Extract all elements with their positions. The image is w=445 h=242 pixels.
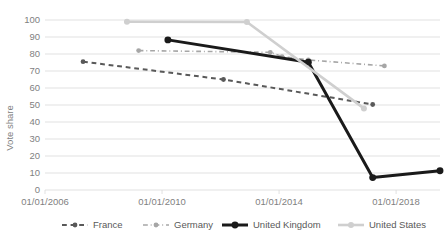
gridlines [45,20,440,190]
data-point-marker [370,102,375,107]
x-tick-label: 01/01/2018 [372,196,420,207]
y-tick-label: 20 [29,150,40,161]
series-line [168,40,440,178]
data-point-marker [382,64,387,69]
legend-marker-icon [348,222,354,228]
legend-label: France [93,219,123,230]
legend-item-germany[interactable]: Germany [143,219,213,230]
y-tick-label: 90 [29,31,40,42]
y-tick-label: 80 [29,48,40,59]
legend-marker-icon [154,223,159,228]
series-line [139,51,385,66]
data-point-marker [136,48,141,53]
legend-label: Germany [174,219,213,230]
x-tick-label: 01/01/2014 [255,196,303,207]
data-point-marker [244,19,250,25]
legend-marker-icon [232,222,239,229]
y-tick-label: 50 [29,99,40,110]
data-point-marker [124,19,130,25]
y-tick-label: 70 [29,65,40,76]
legend-marker-icon [73,223,78,228]
data-point-marker [361,105,367,111]
series-germany [136,48,387,68]
data-point-marker [221,77,226,82]
data-point-marker [268,50,273,55]
data-point-marker [369,174,376,181]
x-axis-tick-labels: 01/01/200601/01/201001/01/201401/01/2018 [21,196,420,207]
y-tick-label: 30 [29,133,40,144]
data-point-marker [164,36,171,43]
legend-label: United Kingdom [253,219,321,230]
x-axis-tick-marks [45,190,396,194]
y-axis-title: Vote share [4,105,15,150]
vote-share-line-chart: 0102030405060708090100 01/01/200601/01/2… [0,0,445,242]
series-united-kingdom [164,36,443,181]
y-tick-label: 40 [29,116,40,127]
y-tick-label: 100 [24,14,40,25]
legend-item-france[interactable]: France [62,219,123,230]
y-tick-label: 10 [29,167,40,178]
y-tick-label: 60 [29,82,40,93]
legend-item-united-states[interactable]: United States [338,219,426,230]
x-tick-label: 01/01/2006 [21,196,69,207]
y-axis-tick-labels: 0102030405060708090100 [24,14,40,195]
legend-item-united-kingdom[interactable]: United Kingdom [222,219,321,230]
legend-label: United States [369,219,426,230]
x-tick-label: 01/01/2010 [138,196,186,207]
data-series-layer [81,19,444,181]
y-tick-label: 0 [35,184,40,195]
chart-container: 0102030405060708090100 01/01/200601/01/2… [0,0,445,242]
data-point-marker [437,167,444,174]
chart-legend: FranceGermanyUnited KingdomUnited States [62,219,426,230]
data-point-marker [81,59,86,64]
